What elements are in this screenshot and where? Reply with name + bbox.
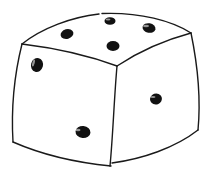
pip-icon [105,17,116,25]
die-illustration: hand-drawn six-sided die [0,0,213,176]
pip-icon [107,41,120,51]
die-drawing [0,0,213,176]
